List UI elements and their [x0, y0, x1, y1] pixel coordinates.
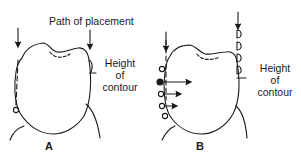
path-of-placement-label: Path of placement [49, 15, 134, 27]
tooth-outline-a [10, 43, 100, 140]
contour-label-line2: of [98, 69, 142, 81]
clasp-tip-sequence-right-b [236, 12, 242, 74]
contour-label-line1: Height [252, 62, 298, 74]
height-of-contour-label-a: Height of contour [98, 57, 142, 93]
force-arrows-b [163, 80, 191, 109]
contour-label-line1: Height [98, 57, 142, 69]
contour-label-line3: contour [98, 81, 142, 93]
panel-label-a: A [45, 140, 53, 152]
contour-label-line2: of [252, 74, 298, 86]
path-of-placement-arrow-right-a [88, 30, 93, 49]
tooth-outline-b [162, 40, 247, 140]
path-of-placement-arrow-b [164, 32, 169, 51]
height-of-contour-label-b: Height of contour [252, 62, 298, 98]
panel-label-b: B [196, 140, 204, 152]
path-of-placement-arrow-left-a [16, 28, 21, 47]
contour-label-line3: contour [252, 86, 298, 98]
